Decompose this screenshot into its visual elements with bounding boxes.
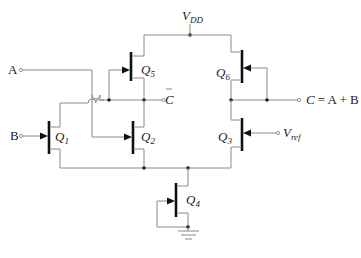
q4-label: Q4	[186, 192, 200, 209]
vdd-label: VDD	[182, 8, 203, 25]
q5-arrow-icon	[122, 67, 130, 74]
input-a-label: A	[8, 62, 18, 77]
vref-terminal	[276, 131, 279, 134]
input-a: A	[8, 62, 104, 100]
transistor-q1: Q1	[40, 121, 69, 168]
q5-label: Q5	[141, 62, 155, 79]
transistor-q4: Q4	[157, 168, 200, 229]
cbar-label: C	[165, 92, 174, 107]
transistor-q6: Q6	[216, 50, 267, 100]
source-rail	[60, 166, 231, 170]
q2-label: Q2	[141, 129, 155, 146]
q6-label: Q6	[216, 65, 230, 82]
q3-arrow-icon	[243, 130, 251, 137]
transistor-q2: Q2	[124, 100, 155, 168]
input-a-terminal	[19, 68, 22, 71]
q4-arrow-icon	[167, 198, 175, 205]
circuit-schematic: VDD Q5 Q6 C A	[0, 0, 361, 258]
c-output-label: C= A + B	[306, 92, 359, 107]
input-b-label: B	[10, 128, 19, 143]
c-terminal	[297, 98, 300, 101]
vdd-rail	[144, 35, 231, 52]
q1-drain-wire	[60, 99, 104, 127]
q6-arrow-icon	[243, 65, 251, 72]
transistor-q5: Q5	[109, 52, 155, 100]
input-b-terminal	[19, 134, 22, 137]
c-output: C= A + B	[229, 92, 359, 107]
ground-icon	[178, 227, 199, 239]
q3-label: Q3	[218, 129, 232, 146]
q1-label: Q1	[55, 129, 69, 146]
transistor-q3: Q3 Vref	[218, 100, 302, 168]
vdd-supply: VDD	[144, 8, 231, 52]
input-b: B	[10, 128, 41, 143]
q1-arrow-icon	[40, 133, 48, 140]
cbar-output: C	[104, 89, 174, 107]
vref-label: Vref	[283, 125, 302, 142]
q2-arrow-icon	[124, 134, 132, 141]
